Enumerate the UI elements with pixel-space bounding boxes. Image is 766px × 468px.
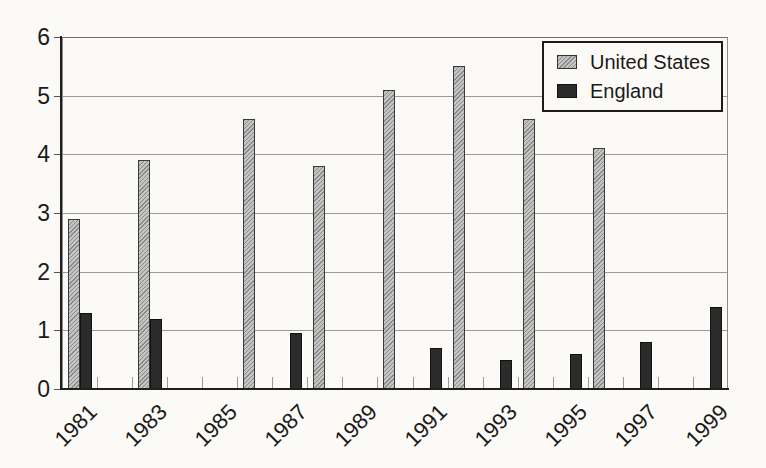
x-axis-line bbox=[60, 388, 729, 390]
y-tick-label-2: 2 bbox=[8, 259, 50, 285]
x-tick-1993 bbox=[483, 377, 484, 388]
x-tick-label-1989: 1989 bbox=[330, 400, 382, 452]
legend-label-united-states: United States bbox=[590, 51, 710, 73]
y-tick-label-1: 1 bbox=[8, 317, 50, 343]
bar-united-states-1996 bbox=[593, 148, 605, 389]
bar-united-states-1994 bbox=[523, 119, 535, 389]
x-tick-1992 bbox=[448, 377, 449, 388]
england-swatch-icon bbox=[557, 84, 577, 98]
legend-label-england: England bbox=[590, 80, 663, 102]
x-tick-1998 bbox=[658, 377, 659, 388]
x-tick-1987 bbox=[272, 377, 273, 388]
x-tick-1996 bbox=[588, 377, 589, 388]
y-tick-5 bbox=[54, 96, 60, 97]
bar-united-states-1988 bbox=[313, 166, 325, 389]
bar-united-states-1992 bbox=[453, 66, 465, 389]
y-tick-0 bbox=[54, 389, 60, 390]
x-tick-label-1987: 1987 bbox=[260, 400, 312, 452]
x-tick-label-1991: 1991 bbox=[400, 400, 452, 452]
y-tick-6 bbox=[54, 37, 60, 38]
y-tick-label-6: 6 bbox=[8, 24, 50, 50]
y-tick-label-4: 4 bbox=[8, 141, 50, 167]
bar-england-1991 bbox=[430, 348, 442, 389]
gridline-3 bbox=[63, 213, 727, 214]
legend-item-united-states: United States bbox=[557, 51, 721, 73]
bar-united-states-1990 bbox=[383, 90, 395, 389]
y-tick-1 bbox=[54, 330, 60, 331]
y-tick-label-5: 5 bbox=[8, 83, 50, 109]
x-tick-1989 bbox=[342, 377, 343, 388]
bar-england-1983 bbox=[150, 319, 162, 389]
gridline-2 bbox=[63, 272, 727, 273]
gridline-1 bbox=[63, 330, 727, 331]
x-tick-label-1997: 1997 bbox=[611, 400, 663, 452]
x-tick-label-1995: 1995 bbox=[541, 400, 593, 452]
y-tick-3 bbox=[54, 213, 60, 214]
bar-chart-figure: 0123456 19811983198519871989199119931995… bbox=[0, 0, 766, 468]
x-tick-1995 bbox=[553, 377, 554, 388]
y-axis-line bbox=[60, 36, 62, 390]
x-tick-1984 bbox=[167, 377, 168, 388]
bar-england-1993 bbox=[500, 360, 512, 389]
gridline-4 bbox=[63, 154, 727, 155]
bar-england-1995 bbox=[570, 354, 582, 389]
bar-england-1987 bbox=[290, 333, 302, 389]
x-tick-1983 bbox=[132, 377, 133, 388]
bar-united-states-1981 bbox=[68, 219, 80, 389]
x-tick-1991 bbox=[413, 377, 414, 388]
x-tick-1997 bbox=[623, 377, 624, 388]
legend-item-england: England bbox=[557, 80, 721, 102]
bar-england-1997 bbox=[640, 342, 652, 389]
bar-england-1999 bbox=[710, 307, 722, 389]
y-tick-4 bbox=[54, 154, 60, 155]
united-states-swatch-icon bbox=[557, 55, 577, 69]
y-tick-label-0: 0 bbox=[8, 376, 50, 402]
x-tick-label-1999: 1999 bbox=[681, 400, 733, 452]
x-tick-1994 bbox=[518, 377, 519, 388]
x-tick-1982 bbox=[97, 377, 98, 388]
x-tick-label-1993: 1993 bbox=[471, 400, 523, 452]
bar-united-states-1983 bbox=[138, 160, 150, 389]
x-tick-1986 bbox=[237, 377, 238, 388]
x-tick-1990 bbox=[377, 377, 378, 388]
y-tick-2 bbox=[54, 272, 60, 273]
x-tick-1999 bbox=[693, 377, 694, 388]
x-tick-label-1985: 1985 bbox=[190, 400, 242, 452]
bar-united-states-1986 bbox=[243, 119, 255, 389]
y-tick-label-3: 3 bbox=[8, 200, 50, 226]
x-tick-label-1981: 1981 bbox=[50, 400, 102, 452]
legend: United States England bbox=[542, 41, 723, 112]
x-tick-label-1983: 1983 bbox=[120, 400, 172, 452]
x-tick-1985 bbox=[202, 377, 203, 388]
x-tick-1988 bbox=[307, 377, 308, 388]
bar-england-1981 bbox=[80, 313, 92, 389]
